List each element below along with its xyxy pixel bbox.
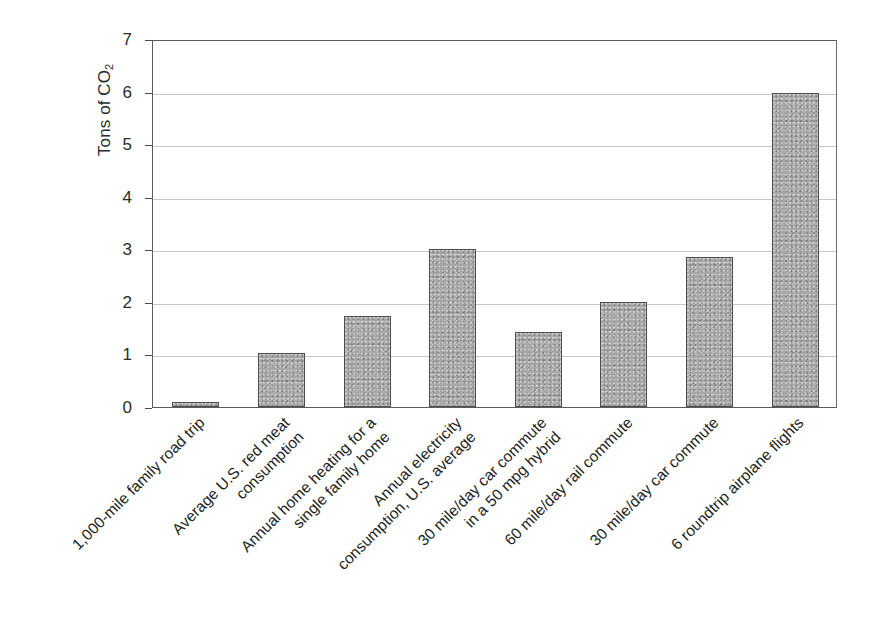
bar [772, 93, 819, 407]
y-axis-tick-label: 2 [108, 294, 132, 311]
y-axis-tick-label: 4 [108, 189, 132, 206]
y-axis-tick-label: 7 [108, 31, 132, 48]
y-axis-tick-mark [145, 93, 152, 94]
y-axis-tick-label: 1 [108, 346, 132, 363]
bar [515, 332, 562, 407]
bar [686, 257, 733, 407]
y-axis-tick-mark [145, 198, 152, 199]
y-axis-tick-mark [145, 40, 152, 41]
bar [258, 353, 305, 407]
bar [172, 402, 219, 407]
y-axis-tick-mark [145, 250, 152, 251]
y-axis-title: Tons of CO2 [95, 0, 121, 156]
y-axis-tick-mark [145, 303, 152, 304]
bar [344, 316, 391, 407]
y-axis-tick-label: 5 [108, 136, 132, 153]
bar-chart-figure: Tons of CO2 01234567 1,000-mile family r… [0, 0, 880, 628]
y-axis-tick-mark [145, 145, 152, 146]
plot-area [152, 40, 837, 408]
bars-group [153, 41, 836, 407]
y-axis-tick-mark [145, 355, 152, 356]
x-axis-category-labels: 1,000-mile family road tripAverage U.S. … [0, 409, 880, 628]
bar [429, 249, 476, 407]
y-axis-title-subscript: 2 [103, 64, 115, 70]
y-axis-tick-label: 3 [108, 241, 132, 258]
y-axis-tick-label: 6 [108, 84, 132, 101]
bar [600, 302, 647, 407]
